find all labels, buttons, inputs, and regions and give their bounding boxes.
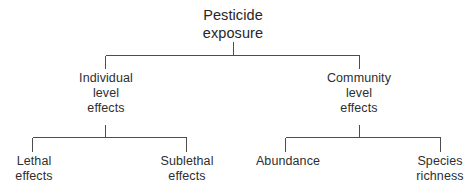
node-community-level-effects: Community level effects (299, 71, 419, 116)
node-individual-level-effects-line3: effects (46, 101, 166, 116)
node-individual-level-effects-line1: Individual (46, 71, 166, 86)
diagram-canvas: Pesticide exposure Individual level effe… (0, 0, 475, 194)
node-pesticide-exposure: Pesticide exposure (143, 6, 323, 42)
node-sublethal-effects-line2: effects (145, 169, 229, 184)
node-pesticide-exposure-line2: exposure (143, 24, 323, 42)
node-individual-level-effects: Individual level effects (46, 71, 166, 116)
node-community-level-effects-line2: level (299, 86, 419, 101)
node-abundance: Abundance (243, 154, 333, 169)
node-species-richness: Species richness (404, 154, 475, 184)
node-species-richness-line2: richness (404, 169, 475, 184)
node-lethal-effects-line2: effects (0, 169, 68, 184)
node-individual-level-effects-line2: level (46, 86, 166, 101)
node-species-richness-line1: Species (404, 154, 475, 169)
node-lethal-effects-line1: Lethal (0, 154, 68, 169)
node-community-level-effects-line3: effects (299, 101, 419, 116)
node-abundance-line1: Abundance (243, 154, 333, 169)
node-pesticide-exposure-line1: Pesticide (143, 6, 323, 24)
node-community-level-effects-line1: Community (299, 71, 419, 86)
node-sublethal-effects-line1: Sublethal (145, 154, 229, 169)
node-sublethal-effects: Sublethal effects (145, 154, 229, 184)
node-lethal-effects: Lethal effects (0, 154, 68, 184)
